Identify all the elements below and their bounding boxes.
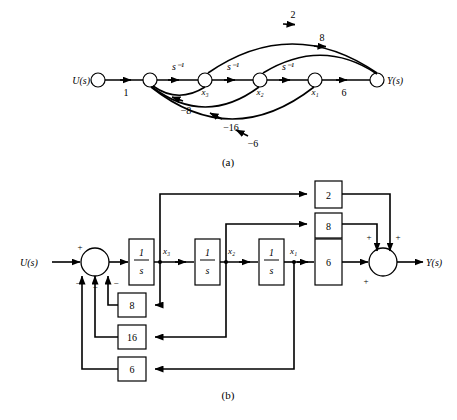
bd-integrator-3 [259,239,284,285]
bd-integrator-3-denominator: s [270,265,274,276]
sfg-arc-gain-8: 8 [263,32,377,74]
bd-integrator-2-denominator: s [206,265,210,276]
bd-integrator-1 [129,239,154,285]
panel-a-caption: (a) [222,156,235,169]
bd-input-sign-minus-3: − [113,278,118,288]
sfg-node-x1 [308,73,322,87]
bd-output-sign-plus-1: + [363,276,368,286]
bd-label-x1: x₁ [289,246,297,256]
bd-path-feedback-6-to-summer [82,276,118,369]
panel-b-caption: (b) [222,389,235,402]
bd-path-x3-to-feedback-8 [155,262,160,305]
control-system-figure: U(s) Y(s) x₃ x₂ x₁ 1 s⁻¹ s⁻¹ s⁻¹ 6 2 8 −… [0,0,457,420]
bd-input-summing-junction [81,248,109,276]
sfg-arc-gain-neg-8: −8 [153,86,205,116]
bd-input-label: U(s) [20,257,38,269]
sfg-arc-label-gain-8: 8 [320,32,325,43]
sfg-node-x2 [253,73,267,87]
sfg-branch-label-integrator-2: s⁻¹ [227,61,239,72]
bd-gain-8-feedback-label: 8 [130,300,135,311]
figure-root: U(s) Y(s) x₃ x₂ x₁ 1 s⁻¹ s⁻¹ s⁻¹ 6 2 8 −… [0,0,457,420]
sfg-node-output [370,73,384,87]
bd-gain-6-forward-label: 6 [326,257,331,268]
bd-path-gain-2-to-summer [342,194,390,251]
bd-label-x2: x₂ [227,246,235,256]
sfg-branch-label-output-gain: 6 [342,87,347,98]
sfg-arc-gain-neg-6: −6 [151,87,314,149]
bd-label-x3: x₃ [162,246,170,256]
sfg-node-input [91,73,105,87]
bd-integrator-3-numerator: 1 [269,247,274,258]
bd-integrator-2-numerator: 1 [205,247,210,258]
bd-output-label: Y(s) [426,257,443,269]
bd-integrator-2 [195,239,220,285]
bd-path-gain-8-to-summer [342,224,377,251]
sfg-branch-label-input-gain: 1 [124,87,129,98]
sfg-arc-label-gain-neg-6: −6 [248,138,259,149]
bd-output-sign-plus-2: + [366,232,371,242]
bd-gain-8-forward-label: 8 [326,221,331,232]
sfg-arc-label-gain-neg-16: −16 [223,122,239,133]
bd-output-summing-junction [369,248,397,276]
sfg-output-label: Y(s) [387,75,404,87]
bd-gain-6-feedback-label: 6 [130,364,135,375]
bd-gain-16-feedback-label: 16 [127,332,137,343]
sfg-branch-label-integrator-1: s⁻¹ [172,61,184,72]
bd-integrator-1-denominator: s [140,265,144,276]
sfg-arc-label-gain-2: 2 [291,9,296,20]
bd-output-sign-plus-3: + [395,232,400,242]
sfg-node-x3 [198,73,212,87]
bd-input-sign-minus-1: − [75,278,80,288]
panel-b-block-diagram: U(s) + − − − 1 s x₃ 1 s x₂ 1 s [20,181,443,402]
panel-a-signal-flow-graph: U(s) Y(s) x₃ x₂ x₁ 1 s⁻¹ s⁻¹ s⁻¹ 6 2 8 −… [72,9,404,169]
bd-input-sign-plus: + [77,242,82,252]
sfg-node-sum [143,73,157,87]
bd-gain-2-forward-label: 2 [326,190,331,201]
sfg-input-label: U(s) [72,75,90,87]
bd-integrator-1-numerator: 1 [139,247,144,258]
